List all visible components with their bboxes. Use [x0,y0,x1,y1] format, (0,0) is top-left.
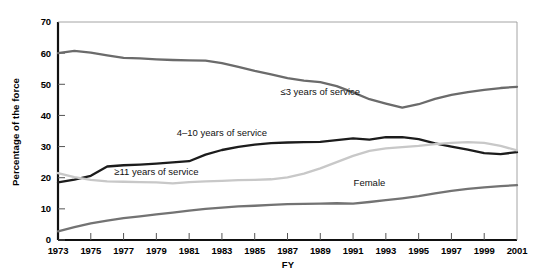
x-tick-label: 1987 [277,245,298,256]
chart-figure: 010203040506070 197319751977197919811983… [0,0,542,277]
x-tick-label: 1993 [375,245,396,256]
x-tick-label: 1989 [310,245,331,256]
plot-frame [58,22,517,240]
x-axis-tick-labels: 1973197519771979198119831985198719891991… [48,245,529,256]
x-axis-title: FY [282,259,295,270]
series-label: Female [354,177,386,188]
x-tick-label: 1979 [146,245,167,256]
series-lines [58,51,517,231]
x-tick-label: 1999 [474,245,495,256]
line-chart: 010203040506070 197319751977197919811983… [0,0,542,277]
y-tick-label: 70 [41,16,51,27]
x-tick-label: 1975 [80,245,102,256]
y-tick-label: 30 [41,141,51,152]
y-tick-label: 10 [41,203,51,214]
x-tick-label: 1977 [113,245,134,256]
x-tick-label: 1995 [408,245,430,256]
y-axis-tick-labels: 010203040506070 [41,16,51,245]
y-axis-title: Percentage of the force [10,78,21,186]
y-tick-label: 50 [41,79,51,90]
y-tick-label: 40 [41,110,51,121]
x-tick-label: 1973 [48,245,69,256]
series-label: ≤3 years of service [280,86,360,97]
x-tick-label: 2001 [507,245,529,256]
y-tick-label: 20 [41,172,51,183]
x-tick-label: 1991 [343,245,365,256]
x-tick-label: 1983 [212,245,233,256]
series-line [58,185,517,231]
y-tick-label: 60 [41,48,51,59]
series-annotations: ≤3 years of service4–10 years of service… [114,86,385,188]
series-line [58,51,517,108]
x-tick-label: 1981 [179,245,201,256]
series-label: ≥11 years of service [114,166,198,177]
x-tick-label: 1985 [244,245,266,256]
series-label: 4–10 years of service [177,127,267,138]
y-tick-label: 0 [46,234,51,245]
x-tick-label: 1997 [441,245,462,256]
series-line [58,142,517,183]
